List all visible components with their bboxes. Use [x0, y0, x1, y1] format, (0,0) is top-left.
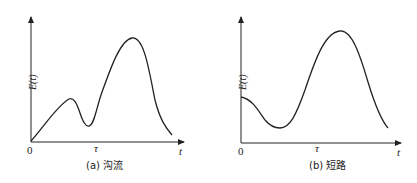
panel-b-origin-label: 0 [238, 146, 244, 157]
panel-b-curve [241, 31, 388, 128]
panel-a-tau-label: τ [94, 143, 98, 154]
panel-a-y-label: E(t) [27, 74, 38, 90]
panel-a-x-label: t [179, 146, 182, 157]
panel-a-curve [31, 38, 172, 141]
panel-b-axes [241, 17, 401, 143]
panel-b-caption: (b) 短路 [309, 157, 346, 172]
diagram-canvas [0, 0, 417, 183]
panel-b-x-label: t [397, 147, 400, 158]
panel-a-caption: (a) 沟流 [86, 157, 123, 172]
panel-b-tau-label: τ [315, 143, 319, 154]
panel-a-axes [31, 17, 184, 142]
panel-a-origin-label: 0 [27, 145, 33, 156]
panel-b-y-label: E(t) [237, 74, 248, 90]
